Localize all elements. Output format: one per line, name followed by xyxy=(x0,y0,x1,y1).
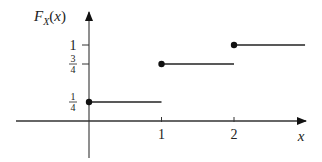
x-axis-label: x xyxy=(297,128,305,144)
cdf-step-chart: 1214341FX(x)x xyxy=(0,0,322,162)
closed-endpoint-dot xyxy=(158,61,164,67)
y-tick-label-denominator: 4 xyxy=(71,64,76,75)
y-tick-label: 1 xyxy=(70,38,77,53)
y-tick-label-numerator: 1 xyxy=(71,91,76,102)
y-tick-label-numerator: 3 xyxy=(71,53,76,64)
closed-endpoint-dot xyxy=(86,99,92,105)
step-segments xyxy=(86,42,305,105)
y-axis-label: FX(x) xyxy=(33,8,66,27)
x-tick-label: 1 xyxy=(158,127,165,142)
y-tick-label-denominator: 4 xyxy=(71,102,76,113)
closed-endpoint-dot xyxy=(231,42,237,48)
x-tick-label: 2 xyxy=(231,127,238,142)
axis-labels: 1214341FX(x)x xyxy=(33,8,305,144)
